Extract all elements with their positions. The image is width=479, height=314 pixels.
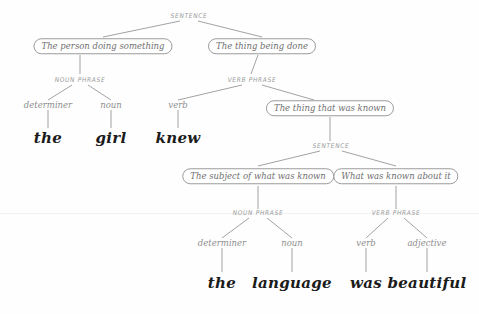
node-predicate-box: The thing being done <box>208 38 316 54</box>
word-the-1: the <box>34 131 62 146</box>
node-subject-box: The person doing something <box>33 38 172 54</box>
node-noun-2: noun <box>281 239 303 248</box>
word-knew: knew <box>156 131 201 146</box>
node-noun-1: noun <box>100 101 122 110</box>
word-beautiful: beautiful <box>387 276 466 291</box>
node-noun-phrase-1: NOUN PHRASE <box>55 77 106 84</box>
word-language: language <box>252 276 332 291</box>
node-embedded-predicate-box: What was known about it <box>333 168 458 184</box>
node-embedded-subject-box: The subject of what was known <box>182 168 334 184</box>
word-was: was <box>350 276 382 291</box>
word-girl: girl <box>96 131 127 146</box>
node-noun-phrase-2: NOUN PHRASE <box>233 210 284 217</box>
node-verb-1: verb <box>168 101 187 110</box>
node-root-sentence: SENTENCE <box>171 13 208 20</box>
node-adjective-2: adjective <box>408 239 447 248</box>
node-verb-phrase-1: VERB PHRASE <box>228 77 277 84</box>
node-determiner-2: determiner <box>198 239 246 248</box>
syntax-tree-diagram: SENTENCE The person doing something The … <box>0 0 479 314</box>
node-determiner-1: determiner <box>24 101 72 110</box>
node-verb-phrase-2: VERB PHRASE <box>372 210 421 217</box>
word-the-2: the <box>208 276 236 291</box>
node-embedded-sentence: SENTENCE <box>313 143 350 150</box>
node-verb-2: verb <box>356 239 375 248</box>
node-object-box: The thing that was known <box>266 100 394 116</box>
